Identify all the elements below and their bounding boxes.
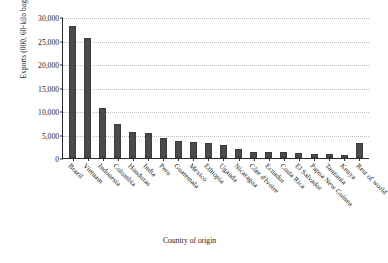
bar-slot [110,18,125,158]
bar-slot [95,18,110,158]
x-label-slot: Ethiopia [200,160,215,230]
plot-area: 05,00010,00015,00020,00025,00030,000 [62,18,369,159]
x-label-slot: Papua New Guinea [307,160,322,230]
x-label-slot: Colombia [109,160,124,230]
bar [175,141,182,158]
bar-slot [352,18,367,158]
bar [356,143,363,158]
x-label-slot: Guatemala [170,160,185,230]
bar [145,133,152,158]
x-label-slot: Indonesia [94,160,109,230]
bar [84,38,91,158]
bar [129,132,136,158]
x-axis-title: Country of origin [0,236,379,245]
x-label-slot: Ecuador [261,160,276,230]
bar [205,143,212,158]
x-label-slot: Honduras [125,160,140,230]
x-label-slot: Côte d'Ivoire [246,160,261,230]
bar-slot [246,18,261,158]
bar-series [63,18,369,158]
y-axis-title: Exports (000, 60-kilo bags) [19,0,28,107]
bar-slot [322,18,337,158]
bar-slot [231,18,246,158]
bar-slot [80,18,95,158]
bar [190,142,197,158]
x-label-slot: El Salvador [291,160,306,230]
bar-slot [171,18,186,158]
bar [220,145,227,158]
bar-slot [140,18,155,158]
x-label-slot: India [140,160,155,230]
bar-slot [261,18,276,158]
x-label-slot: Costa Rica [276,160,291,230]
x-label-slot: Rest of world [352,160,367,230]
bar-slot [307,18,322,158]
bar-slot [125,18,140,158]
bar-slot [156,18,171,158]
bar-slot [201,18,216,158]
bar-slot [291,18,306,158]
x-label-slot: Vietnam [79,160,94,230]
x-label-slot: Kenya [337,160,352,230]
bar [235,149,242,158]
x-label-slot: Uganda [216,160,231,230]
bar-slot [216,18,231,158]
x-label-slot: Nicaragua [231,160,246,230]
bar-slot [337,18,352,158]
x-label-slot: Mexico [185,160,200,230]
bar [69,26,76,158]
x-label-slot: Tanzania [322,160,337,230]
bar [99,108,106,158]
bar-slot [276,18,291,158]
bar [114,124,121,158]
bar-slot [186,18,201,158]
x-label-slot: Peru [155,160,170,230]
x-axis-tick-labels: BrazilVietnamIndonesiaColombiaHondurasIn… [62,160,369,230]
x-label-slot: Brazil [64,160,79,230]
bar [160,138,167,158]
x-axis-tick-label: Rest of world [354,162,388,196]
bar-slot [65,18,80,158]
